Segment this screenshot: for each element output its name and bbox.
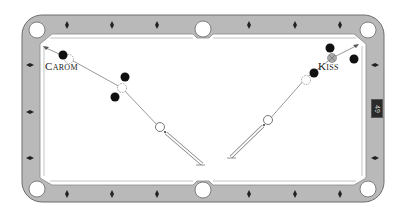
page-number-tag: 49 [371, 99, 383, 118]
pocket-top-left [29, 22, 45, 38]
carom-label: Carom [45, 60, 78, 72]
kiss-label: Kiss [318, 60, 339, 72]
pocket-bottom-right [360, 181, 376, 197]
object-ball [326, 44, 335, 53]
table-felt [40, 34, 366, 185]
pocket-top-middle [195, 21, 211, 37]
object-ball [111, 93, 120, 102]
ghost-ball [118, 84, 127, 93]
pocket-bottom-left [29, 181, 45, 197]
object-ball [59, 51, 68, 60]
ghost-ball [302, 76, 311, 85]
cue-ball [264, 116, 273, 125]
pool-table [0, 0, 406, 217]
object-ball [121, 73, 130, 82]
pocket-top-right [360, 22, 376, 38]
cue-ball [156, 123, 165, 132]
pocket-bottom-middle [195, 182, 211, 198]
page-number: 49 [372, 105, 382, 113]
object-ball [350, 55, 359, 64]
billiard-diagram: Carom Kiss 49 [0, 0, 406, 217]
